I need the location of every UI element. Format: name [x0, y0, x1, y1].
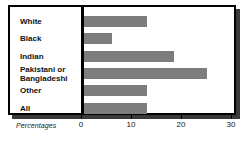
tick-label-0: 0 [71, 120, 91, 129]
tick-label-30: 30 [221, 120, 241, 129]
tick-mark-10 [131, 115, 132, 119]
x-axis-caption: Percentages [16, 122, 56, 129]
tick-mark-30 [231, 115, 232, 119]
category-labels: WhiteBlackIndianPakistani or Bangladeshi… [10, 7, 234, 113]
category-label-white: White [20, 17, 42, 26]
tick-mark-20 [181, 115, 182, 119]
tick-label-20: 20 [171, 120, 191, 129]
tick-mark-0 [81, 115, 82, 119]
category-label-indian: Indian [20, 52, 44, 61]
category-label-black: Black [20, 34, 41, 43]
chart-screenshot: WhiteBlackIndianPakistani or Bangladeshi… [0, 0, 249, 142]
category-label-all: All [20, 104, 30, 113]
category-label-other: Other [20, 86, 41, 95]
category-label-pakistani-or-bangladeshi: Pakistani or Bangladeshi [20, 65, 68, 83]
chart-plot-frame: WhiteBlackIndianPakistani or Bangladeshi… [8, 5, 236, 115]
x-axis: Percentages 0102030 [8, 115, 240, 142]
tick-label-10: 10 [121, 120, 141, 129]
